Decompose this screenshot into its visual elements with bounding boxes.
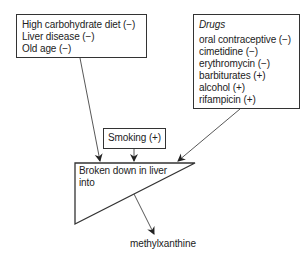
arrow-liver-to-product [134, 194, 154, 234]
drugs-title: Drugs [199, 19, 299, 31]
drugs-box: Drugs oral contraceptive (−) cimetidine … [193, 14, 300, 109]
drug-item: barbiturates (+) [199, 70, 299, 82]
factors-box: High carbohydrate diet (−) Liver disease… [16, 14, 147, 58]
liver-process-line: Broken down in liver [79, 165, 167, 177]
drug-item: cimetidine (−) [199, 46, 299, 58]
drug-item: oral contraceptive (−) [199, 34, 299, 46]
drug-item: rifampicin (+) [199, 94, 299, 106]
product-label: methylxanthine [130, 238, 196, 250]
factor-item: Old age (−) [22, 43, 146, 55]
arrow-factors-to-liver [80, 58, 100, 161]
liver-process-line: into [79, 177, 167, 189]
arrow-drugs-to-liver [178, 109, 240, 161]
drug-item: erythromycin (−) [199, 58, 299, 70]
smoking-box: Smoking (+) [103, 128, 166, 149]
drug-item: alcohol (+) [199, 82, 299, 94]
smoking-label: Smoking (+) [108, 132, 161, 143]
factor-item: High carbohydrate diet (−) [22, 19, 146, 31]
liver-process-label: Broken down in liver into [79, 165, 167, 189]
factor-item: Liver disease (−) [22, 31, 146, 43]
